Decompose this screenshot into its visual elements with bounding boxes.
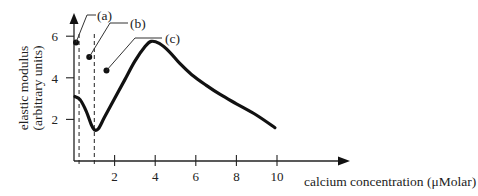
y-tick-label: 2: [52, 112, 59, 127]
y-tick-label: 4: [52, 71, 59, 86]
x-tick-label: 10: [271, 169, 284, 184]
x-tick-label: 2: [111, 169, 118, 184]
y-axis-label-line-2: (arbitrary units): [30, 45, 45, 130]
x-tick-label: 8: [233, 169, 240, 184]
y-axis-label-line-1: elastic modulus: [16, 46, 31, 130]
annotation-label: (a): [97, 8, 112, 23]
annotation-label: (c): [165, 31, 180, 46]
annotation-leader-line: [76, 15, 96, 42]
x-ticks: 246810: [111, 155, 283, 184]
elastic-modulus-chart: 246810 246 (a)(b)(c) calcium concentrati…: [0, 0, 478, 196]
annotation-label: (b): [130, 16, 146, 31]
x-tick-label: 4: [152, 169, 159, 184]
x-axis-arrow-icon: [338, 157, 350, 166]
x-tick-label: 6: [193, 169, 200, 184]
y-ticks: 246: [52, 29, 75, 127]
y-axis-arrow-icon: [70, 13, 79, 24]
y-axis-label: elastic modulus (arbitrary units): [16, 45, 45, 130]
elastic-modulus-curve: [75, 41, 275, 130]
x-axis-label: calcium concentration (μMolar): [304, 174, 476, 189]
annotations: (a)(b)(c): [73, 8, 180, 74]
y-tick-label: 6: [52, 29, 59, 44]
